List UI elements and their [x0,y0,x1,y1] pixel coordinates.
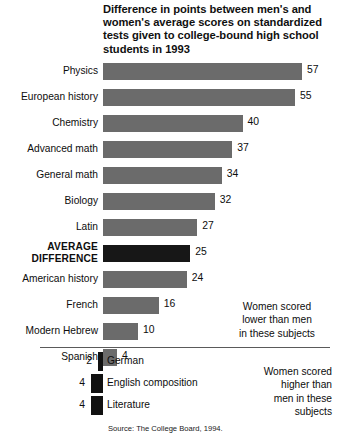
bar-row: European history55 [0,86,337,112]
bar [103,193,215,210]
annotation-women-scored-higher: Women scored higher than men in these su… [222,365,332,419]
negative-bar [98,352,103,371]
bar-row: Chemistry40 [0,112,337,138]
bar-row-label: Latin [0,221,98,233]
bar-row-label: French [0,299,98,311]
bar-value-label: 32 [220,194,232,206]
bar [103,115,243,132]
bar-row-label: European history [0,91,98,103]
bar-row-label: General math [0,169,98,181]
bar-value-label: 57 [307,64,319,76]
bar [103,219,197,236]
bar-row: Advanced math37 [0,138,337,164]
bar-row: American history24 [0,268,337,294]
negative-bar-row-label: German [107,355,144,367]
bar-row-label: Advanced math [0,143,98,155]
bar [103,323,138,340]
bar-row: General math34 [0,164,337,190]
bar-value-label: 40 [248,116,260,128]
zero-axis-divider [40,347,330,348]
bar-row-label: Modern Hebrew [0,325,98,337]
bar [103,297,159,314]
bar-value-label: 34 [227,168,239,180]
bar [103,245,190,262]
bar-row-label: Biology [0,195,98,207]
bar-value-label: 24 [192,272,204,284]
bar-row: Biology32 [0,190,337,216]
negative-bar-value-label: 2 [0,355,92,367]
bar-row-label: AVERAGE DIFFERENCE [0,241,98,264]
source-note: Source: The College Board, 1994. [108,424,223,433]
bar-row: Latin27 [0,216,337,242]
bar-row: AVERAGE DIFFERENCE25 [0,242,337,268]
negative-bar-row-label: English composition [107,377,198,389]
negative-bar [91,396,103,415]
bar-row-label: Physics [0,65,98,77]
bar-row: Physics57 [0,60,337,86]
bar-row-label: Chemistry [0,117,98,129]
bar-value-label: 55 [300,90,312,102]
bar-value-label: 16 [164,298,176,310]
negative-bar-row-label: Literature [107,399,150,411]
bar-row-label: American history [0,273,98,285]
negative-bar [91,374,103,393]
chart-title: Difference in points between men's and w… [103,3,331,56]
bar-value-label: 27 [202,220,214,232]
bar [103,89,295,106]
bar-value-label: 37 [237,142,249,154]
bar [103,63,302,80]
bar [103,141,232,158]
chart-figure: Difference in points between men's and w… [0,0,337,445]
bar [103,167,222,184]
bar-value-label: 25 [195,246,207,258]
annotation-women-scored-lower: Women scored lower than men in these sub… [222,300,332,340]
negative-bar-value-label: 4 [0,377,85,389]
negative-bar-value-label: 4 [0,399,85,411]
bar [103,271,187,288]
bar-value-label: 10 [143,324,155,336]
